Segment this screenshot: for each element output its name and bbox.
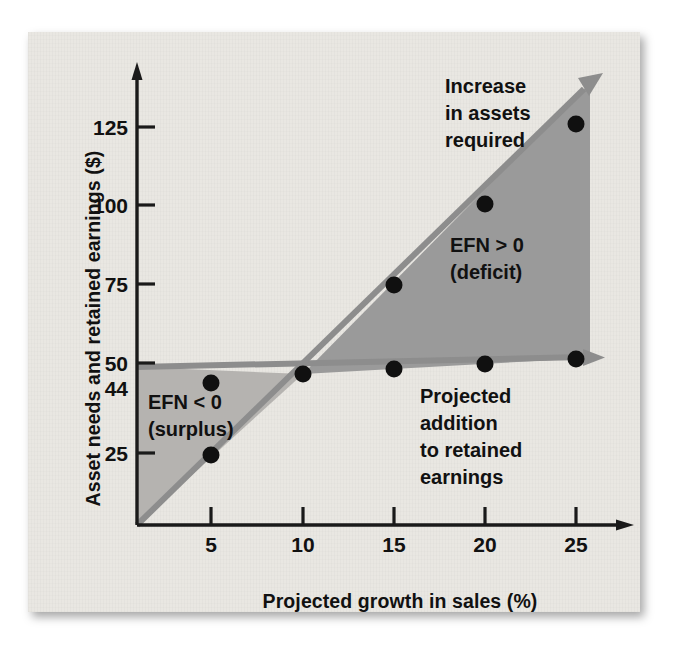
data-point [477,196,494,213]
y-tick-label-75: 75 [105,273,129,296]
x-tick-label-20: 20 [473,533,496,556]
y-tick-label-125: 125 [93,116,128,139]
y-tick-label-44: 44 [105,377,129,400]
annot-increase-line3: required [445,129,525,151]
x-tick-label-5: 5 [205,533,217,556]
x-tick-label-15: 15 [382,533,406,556]
annot-efn-pos-line1: EFN > 0 [450,234,524,256]
x-axis-arrow [616,520,634,531]
annot-retained-line2: addition [420,412,498,434]
y-tick-label-25: 25 [105,442,129,465]
annot-retained-line3: to retained [420,439,522,461]
annotation-projected-addition: Projected addition to retained earnings [420,385,522,488]
data-point [386,277,403,294]
data-point [386,361,403,378]
x-tick-label-10: 10 [291,533,314,556]
data-point [477,356,494,373]
annot-retained-line4: earnings [420,466,503,488]
figure-page: Asset needs and retained earnings ($) Pr… [0,0,687,652]
annot-increase-line1: Increase [445,75,526,97]
y-axis-arrow [132,62,143,80]
y-tick-labels: 125 100 75 50 44 25 [93,116,128,465]
efn-chart: 125 100 75 50 44 25 5 10 15 20 25 [0,0,687,652]
annot-efn-neg-line2: (surplus) [148,418,234,440]
x-axis-ticks [211,507,576,525]
x-tick-labels: 5 10 15 20 25 [205,533,588,556]
y-tick-label-50: 50 [105,352,128,375]
data-point [203,375,220,392]
annot-increase-line2: in assets [445,102,531,124]
annot-efn-pos-line2: (deficit) [450,261,522,283]
data-point [568,351,585,368]
data-point [568,116,585,133]
annot-retained-line1: Projected [420,385,511,407]
annot-efn-neg-line1: EFN < 0 [148,391,222,413]
y-tick-label-100: 100 [93,194,128,217]
data-point [203,447,220,464]
x-tick-label-25: 25 [564,533,588,556]
data-point [295,366,312,383]
annotation-increase-in-assets-required: Increase in assets required [445,75,531,151]
